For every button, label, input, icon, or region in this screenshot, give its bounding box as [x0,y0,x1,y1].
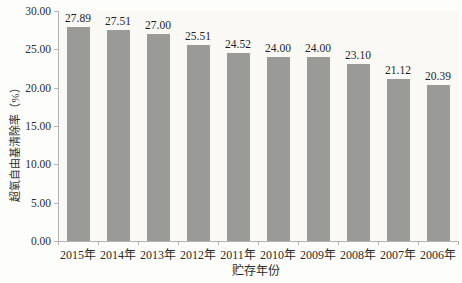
y-tick-label: 0.00 [11,234,51,248]
bar [147,34,170,241]
bar-value-label: 27.51 [96,15,140,28]
y-tick-mark [54,203,58,204]
bar-value-label: 20.39 [416,70,460,83]
x-tick-mark [98,241,99,245]
x-tick-mark [258,241,259,245]
bar-chart: 超氧自由基清除率（%） 0.005.0010.0015.0020.0025.00… [0,0,462,283]
bar [307,57,330,241]
y-tick-mark [54,88,58,89]
bar-value-label: 24.00 [296,42,340,55]
bar [187,45,210,241]
y-tick-label: 15.00 [11,119,51,133]
x-tick-mark [218,241,219,245]
bar-value-label: 24.52 [216,38,260,51]
bar [387,79,410,241]
y-tick-mark [54,164,58,165]
x-tick-mark [418,241,419,245]
bar [427,85,450,241]
x-tick-mark [378,241,379,245]
bar-value-label: 24.00 [256,42,300,55]
x-tick-mark [458,241,459,245]
x-tick-mark [298,241,299,245]
y-tick-label: 25.00 [11,42,51,56]
x-tick-mark [58,241,59,245]
y-tick-mark [54,49,58,50]
x-tick-mark [138,241,139,245]
x-axis-title: 贮存年份 [206,264,306,279]
y-tick-label: 5.00 [11,196,51,210]
bar-value-label: 21.12 [376,64,420,77]
bar-value-label: 25.51 [176,30,220,43]
bar [267,57,290,241]
y-tick-mark [54,126,58,127]
x-tick-label: 2006年 [415,248,461,262]
bar-value-label: 27.89 [56,12,100,25]
y-tick-label: 30.00 [11,4,51,18]
bar [347,64,370,241]
bar [107,30,130,241]
y-tick-label: 10.00 [11,157,51,171]
bar [67,27,90,241]
bar-value-label: 23.10 [336,49,380,62]
bar-value-label: 27.00 [136,19,180,32]
y-axis-line [58,11,59,242]
bar [227,53,250,241]
y-tick-label: 20.00 [11,81,51,95]
x-tick-mark [338,241,339,245]
x-tick-mark [178,241,179,245]
